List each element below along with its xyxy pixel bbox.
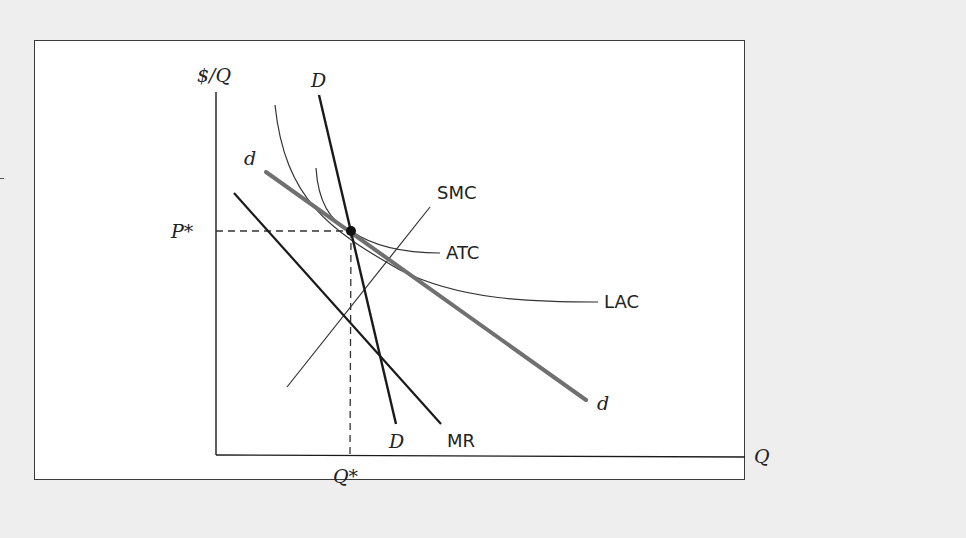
y-axis-label: $/Q xyxy=(197,64,231,86)
q-star-label: Q* xyxy=(333,465,359,487)
lac-label: LAC xyxy=(604,291,639,312)
smc-curve xyxy=(287,207,430,387)
D-top-label: D xyxy=(310,69,326,91)
equilibrium-point xyxy=(346,226,356,236)
p-star-label: P* xyxy=(170,220,194,242)
x-axis-label: Q xyxy=(754,445,770,467)
q-star-guide xyxy=(350,231,351,455)
d-top-label: d xyxy=(244,147,256,169)
mr-curve xyxy=(234,193,441,424)
atc-label: ATC xyxy=(446,242,479,263)
x-axis xyxy=(216,455,745,457)
economics-diagram: $/Q Q P* Q* D D d d MR SMC ATC LAC xyxy=(0,0,966,538)
D-bottom-label: D xyxy=(388,430,404,452)
D-curve xyxy=(319,95,396,424)
figure-stage: $/Q Q P* Q* D D d d MR SMC ATC LAC xyxy=(0,0,966,538)
smc-label: SMC xyxy=(437,182,477,203)
atc-curve xyxy=(316,168,440,253)
d-bottom-label: d xyxy=(597,392,609,414)
mr-label: MR xyxy=(447,430,475,451)
d-curve xyxy=(266,172,586,400)
